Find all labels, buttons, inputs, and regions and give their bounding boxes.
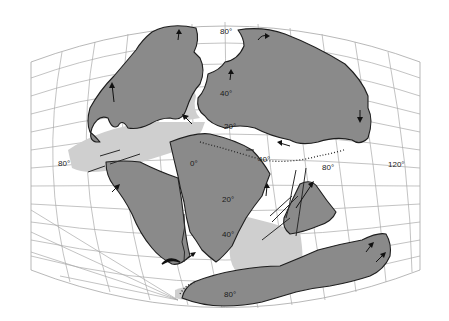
label-lat-80-south: 80° [224,290,236,299]
paleogeographic-map: 80° 40° 20° 0° 20° 40° 80° 80° 40° 80° 1… [0,0,449,321]
label-lon-80-east: 80° [322,163,334,172]
label-lat-0: 0° [190,159,198,168]
label-lon-40-mid: 40° [258,155,270,164]
label-lon-120-east: 120° [388,160,405,169]
label-lat-80-north: 80° [220,27,232,36]
label-lon-80-west: 80° [58,159,70,168]
label-lat-40-south: 40° [222,230,234,239]
label-lat-20-south: 20° [222,195,234,204]
label-lat-20-north: 20° [224,122,236,131]
label-lat-40-north: 40° [220,89,232,98]
